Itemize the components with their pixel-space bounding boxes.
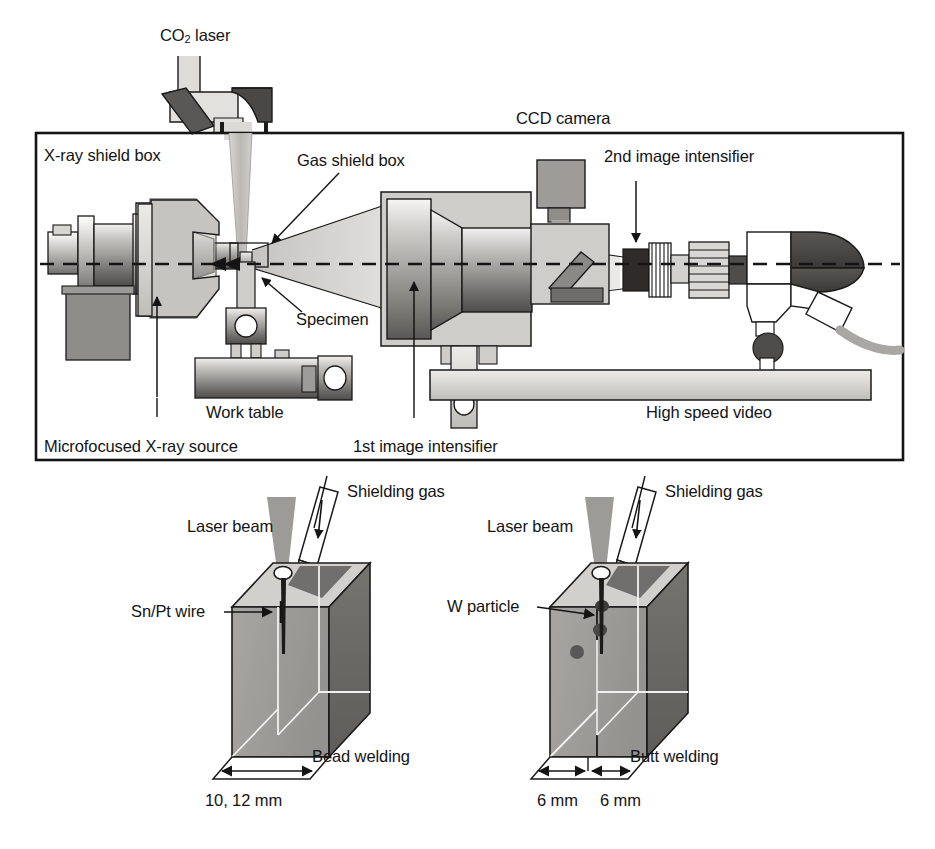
label-bead-laser-beam: Laser beam	[187, 518, 273, 535]
ccd-camera-assembly	[531, 160, 609, 304]
optical-bench-rail	[430, 370, 871, 400]
high-speed-video-camera	[747, 232, 900, 372]
label-gas-shield-box: Gas shield box	[297, 152, 405, 169]
label-work-table: Work table	[206, 404, 284, 421]
co2-laser-head	[162, 56, 272, 140]
laser-beam-cone	[229, 133, 252, 258]
label-ccd-camera: CCD camera	[516, 110, 610, 127]
label-butt-laser-beam: Laser beam	[487, 518, 573, 535]
label-x-ray-shield-box: X-ray shield box	[44, 147, 161, 164]
label-butt-welding: Butt welding	[630, 748, 719, 765]
label-w-particle: W particle	[447, 598, 519, 615]
label-bead-welding: Bead welding	[312, 748, 410, 765]
label-co2-laser: CO2 laser	[160, 27, 230, 45]
label-sn-pt-wire: Sn/Pt wire	[131, 603, 205, 620]
label-butt-dimension-2: 6 mm	[600, 792, 641, 809]
label-high-speed-video: High speed video	[646, 404, 772, 421]
label-bead-shielding-gas: Shielding gas	[347, 483, 445, 500]
label-microfocused-x-ray-source: Microfocused X-ray source	[44, 438, 238, 455]
label-1st-image-intensifier: 1st image intensifier	[353, 438, 498, 455]
label-2nd-image-intensifier: 2nd image intensifier	[604, 148, 754, 165]
label-butt-dimension-1: 6 mm	[537, 792, 578, 809]
work-table	[195, 350, 352, 400]
second-image-intensifier	[623, 181, 747, 298]
schematic-artwork	[0, 0, 935, 849]
label-bead-dimension: 10, 12 mm	[205, 792, 282, 809]
label-specimen: Specimen	[296, 311, 369, 328]
ccd-camera-body	[537, 160, 585, 208]
figure-root: CO2 laser CCD camera X-ray shield box Ga…	[0, 0, 935, 849]
x-ray-fan-beam	[252, 204, 388, 310]
label-butt-shielding-gas: Shielding gas	[665, 483, 763, 500]
